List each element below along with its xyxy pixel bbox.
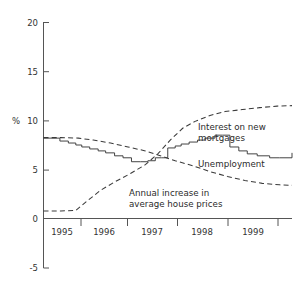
y-tick-label-minus5: -5 <box>30 263 38 273</box>
chart-container: 20 15 10 5 0 -5 % 1995 1996 1997 1998 19… <box>0 0 308 286</box>
y-tick-label-20: 20 <box>27 18 38 28</box>
x-axis-ticks <box>81 219 278 227</box>
house-prices-label-line1: Annual increase in <box>129 188 209 198</box>
x-tick-label-1996: 1996 <box>93 227 115 237</box>
y-tick-label-10: 10 <box>27 116 38 126</box>
y-axis-ticks <box>44 23 50 269</box>
y-tick-label-5: 5 <box>33 165 38 175</box>
y-axis-title: % <box>12 116 20 126</box>
house-prices-label-line2: average house prices <box>129 199 223 209</box>
y-tick-label-0: 0 <box>33 214 38 224</box>
interest-label-line1: Interest on new <box>198 122 266 132</box>
interest-label-line2: mortgages <box>198 133 245 143</box>
x-tick-label-1997: 1997 <box>141 227 163 237</box>
x-tick-label-1995: 1995 <box>51 227 73 237</box>
line-chart: 20 15 10 5 0 -5 % 1995 1996 1997 1998 19… <box>0 0 308 286</box>
x-tick-label-1998: 1998 <box>191 227 213 237</box>
y-tick-label-15: 15 <box>27 67 38 77</box>
x-tick-label-1999: 1999 <box>242 227 264 237</box>
unemployment-label: Unemployment <box>198 159 265 169</box>
